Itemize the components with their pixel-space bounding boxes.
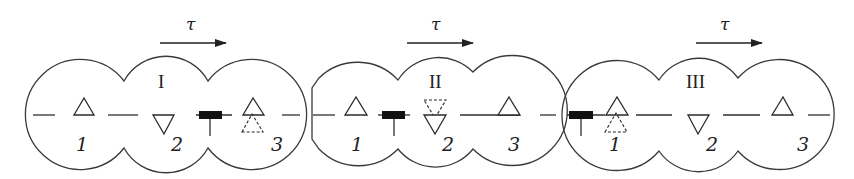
- position-label: 2: [441, 133, 454, 155]
- direction-arrow: τ: [696, 14, 762, 43]
- tau-label: τ: [186, 14, 196, 34]
- triangle-up-icon: [606, 97, 628, 115]
- triangle-up-icon: [243, 98, 264, 115]
- triangle-up-icon: [74, 98, 94, 115]
- position-label: 3: [271, 133, 283, 155]
- panel-label: II: [429, 71, 442, 92]
- panel-3: τ III 1 2 3: [562, 14, 834, 172]
- panel-1: τ I 1 2 3: [25, 14, 306, 173]
- three-panel-diagram: τ I 1 2 3 τ: [0, 0, 854, 179]
- direction-arrow: τ: [160, 14, 226, 43]
- panel-label: III: [686, 71, 705, 92]
- tau-label: τ: [720, 14, 730, 34]
- direction-arrow: τ: [407, 14, 473, 43]
- position-label: 1: [351, 133, 363, 155]
- panel-label: I: [158, 71, 164, 92]
- triangle-up-icon: [498, 97, 520, 115]
- tau-label: τ: [431, 14, 441, 34]
- block-marker: [569, 111, 593, 136]
- position-label: 1: [609, 133, 621, 155]
- position-label: 1: [76, 133, 88, 155]
- block-marker: [382, 111, 405, 136]
- position-label: 2: [170, 133, 183, 155]
- dashed-triangle-icon: [242, 114, 263, 132]
- triangle-down-icon: [688, 115, 709, 134]
- panel-2: τ II 1 2 3: [312, 14, 567, 167]
- triangle-down-icon: [153, 115, 174, 134]
- block-marker: [199, 111, 222, 136]
- position-label: 3: [797, 133, 809, 155]
- triangle-up-icon: [345, 97, 367, 115]
- position-label: 3: [508, 133, 520, 155]
- dashed-triangle-icon: [605, 113, 627, 132]
- triangle-up-icon: [772, 97, 793, 115]
- triangle-down-icon: [424, 115, 446, 134]
- position-label: 2: [705, 133, 718, 155]
